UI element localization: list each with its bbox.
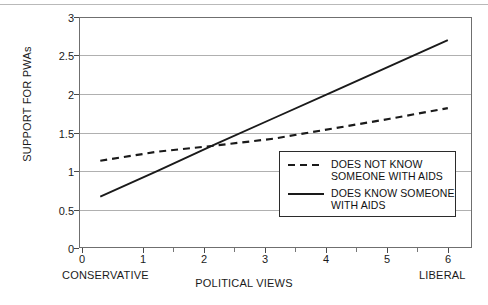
x-tick-label-3: 3	[250, 254, 280, 265]
x-tick-label-5: 5	[372, 254, 402, 265]
x-tick-mark-minor-2.5	[234, 248, 235, 252]
x-tick-mark-minor-1.5	[173, 248, 174, 252]
chart-legend: DOES NOT KNOW SOMEONE WITH AIDS DOES KNO…	[279, 151, 456, 217]
plot-area: DOES NOT KNOW SOMEONE WITH AIDS DOES KNO…	[79, 17, 472, 248]
y-tick-label-2: 2	[0, 90, 74, 101]
legend-item-does-not-know: DOES NOT KNOW SOMEONE WITH AIDS	[280, 158, 455, 182]
legend-label-does-know: DOES KNOW SOMEONE WITH AIDS	[331, 187, 455, 211]
y-tick-label-1.5: 1.5	[0, 129, 74, 140]
x-tick-mark-minor-5.5	[417, 248, 418, 252]
x-tick-label-1: 1	[128, 254, 158, 265]
x-tick-mark-minor-4.5	[356, 248, 357, 252]
legend-label-does-not-know: DOES NOT KNOW SOMEONE WITH AIDS	[331, 158, 443, 182]
x-axis-title: POLITICAL VIEWS	[0, 277, 488, 289]
y-tick-label-2.5: 2.5	[0, 51, 74, 62]
x-tick-label-4: 4	[311, 254, 341, 265]
legend-item-does-know: DOES KNOW SOMEONE WITH AIDS	[280, 187, 455, 211]
x-tick-mark-minor-3.5	[295, 248, 296, 252]
x-tick-label-2: 2	[189, 254, 219, 265]
x-tick-label-6: 6	[433, 254, 463, 265]
y-tick-label-1: 1	[0, 167, 74, 178]
dashed-line-icon	[288, 162, 324, 174]
x-tick-label-0: 0	[67, 254, 97, 265]
y-tick-label-0.5: 0.5	[0, 206, 74, 217]
y-tick-label-0: 0	[0, 244, 74, 255]
chart-figure: SUPPORT FOR PWAs 3 2.5 2 1.5 1 0.5 0	[0, 0, 488, 305]
y-tick-mark-0	[74, 248, 79, 249]
solid-line-icon	[288, 191, 324, 203]
y-tick-label-3: 3	[0, 13, 74, 24]
top-divider-rule	[0, 4, 488, 5]
